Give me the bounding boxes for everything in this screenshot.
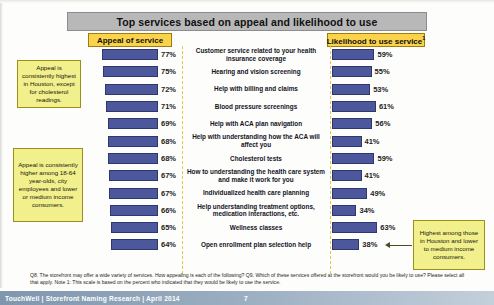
callout-leader-line <box>388 245 412 246</box>
appeal-value-label: 77% <box>161 50 180 59</box>
appeal-bar-cell: 64% <box>0 236 182 253</box>
appeal-value-label: 68% <box>161 137 180 146</box>
appeal-value-label: 65% <box>161 223 180 232</box>
service-label-cell: Help understanding treatment options, me… <box>182 202 330 219</box>
appeal-bar <box>109 170 158 181</box>
likelihood-value-label: 61% <box>379 102 398 111</box>
service-label: Help understanding treatment options, me… <box>185 203 327 219</box>
service-label-cell: How to understanding the health care sys… <box>182 167 330 184</box>
appeal-value-label: 72% <box>161 85 180 94</box>
column-header-likelihood: Likelihood to use service1 <box>327 33 425 47</box>
likelihood-bar-cell: 59% <box>330 46 494 63</box>
appeal-bar <box>108 136 158 147</box>
likelihood-value-label: 56% <box>375 119 394 128</box>
likelihood-bar-cell: 41% <box>330 167 494 184</box>
likelihood-bar <box>332 118 372 129</box>
appeal-value-label: 75% <box>161 67 180 76</box>
callout-appeal-houston: Appeal is consistently highest in Housto… <box>17 60 81 108</box>
likelihood-value-label: 34% <box>359 206 378 215</box>
appeal-bar-cell: 69% <box>0 115 182 132</box>
likelihood-bar <box>332 222 377 233</box>
service-label-cell: Cholesterol tests <box>182 150 330 167</box>
appeal-value-label: 71% <box>161 102 180 111</box>
service-label-cell: Open enrollment plan selection help <box>182 236 330 253</box>
service-label: Customer service related to your health … <box>185 47 327 63</box>
chart-row: 69%Help with ACA plan navigation56% <box>0 115 494 132</box>
likelihood-bar-cell: 53% <box>330 81 494 98</box>
appeal-bar <box>108 118 158 129</box>
service-label-cell: Hearing and vision screening <box>182 63 330 80</box>
likelihood-bar <box>332 84 370 95</box>
service-label: How to understanding the health care sys… <box>185 168 327 184</box>
page-edge-top <box>0 0 494 3</box>
likelihood-value-label: 41% <box>365 137 384 146</box>
likelihood-bar-cell: 41% <box>330 132 494 149</box>
slide-title-bar: Top services based on appeal and likelih… <box>67 12 427 31</box>
likelihood-bar-cell: 49% <box>330 184 494 201</box>
likelihood-bar-cell: 34% <box>330 202 494 219</box>
footer-page-number: 7 <box>244 295 248 302</box>
appeal-value-label: 69% <box>161 119 180 128</box>
service-label: Help with billing and claims <box>214 85 298 93</box>
appeal-bar <box>110 205 158 216</box>
service-label: Open enrollment plan selection help <box>201 241 311 249</box>
appeal-bar <box>103 66 158 77</box>
service-label: Individualized health care planning <box>203 189 309 197</box>
appeal-bar <box>105 84 158 95</box>
service-label: Help with ACA plan navigation <box>210 120 302 128</box>
service-label: Cholesterol tests <box>230 155 282 163</box>
service-label-cell: Wellness classes <box>182 219 330 236</box>
appeal-bar <box>111 239 158 250</box>
likelihood-value-label: 55% <box>375 67 394 76</box>
service-label-cell: Individualized health care planning <box>182 184 330 201</box>
service-label: Wellness classes <box>230 224 282 232</box>
likelihood-value-label: 59% <box>377 50 396 59</box>
appeal-value-label: 67% <box>161 171 180 180</box>
likelihood-value-label: 49% <box>370 189 389 198</box>
appeal-value-label: 67% <box>161 189 180 198</box>
likelihood-bar <box>332 49 374 60</box>
service-label-cell: Help with ACA plan navigation <box>182 115 330 132</box>
likelihood-bar-cell: 59% <box>330 150 494 167</box>
likelihood-bar <box>332 205 356 216</box>
appeal-value-label: 64% <box>161 240 180 249</box>
likelihood-bar <box>332 188 367 199</box>
footer-brand: TouchWell | Storefront Naming Research |… <box>5 295 180 302</box>
service-label-cell: Blood pressure screenings <box>182 98 330 115</box>
callout-appeal-demographics: Appeal is consistently higher among 18-6… <box>13 148 83 222</box>
service-label: Blood pressure screenings <box>215 103 297 111</box>
callout-appeal-houston-text: Appeal is consistently highest in Housto… <box>21 64 77 104</box>
likelihood-value-label: 53% <box>373 85 392 94</box>
column-header-appeal: Appeal of service <box>88 33 172 47</box>
column-header-likelihood-label: Likelihood to use service1 <box>327 35 426 46</box>
appeal-value-label: 66% <box>161 206 180 215</box>
likelihood-value-label: 41% <box>365 171 384 180</box>
likelihood-bar-cell: 61% <box>330 98 494 115</box>
footnote: Q8. The storefront may offer a wide vari… <box>30 272 470 286</box>
footer-bar: TouchWell | Storefront Naming Research |… <box>0 291 494 305</box>
likelihood-bar <box>332 153 374 164</box>
appeal-bar <box>102 49 158 60</box>
likelihood-bar <box>332 239 359 250</box>
callout-likelihood-houston: Highest among those in Houston and lower… <box>413 220 485 270</box>
likelihood-value-label: 38% <box>362 240 381 249</box>
service-label: Hearing and vision screening <box>211 68 300 76</box>
service-label-cell: Help with understanding how the ACA will… <box>182 132 330 149</box>
appeal-bar <box>111 222 158 233</box>
appeal-bar <box>108 153 158 164</box>
footnote-marker: 1 <box>422 35 425 41</box>
service-label-cell: Customer service related to your health … <box>182 46 330 63</box>
service-label: Help with understanding how the ACA will… <box>185 133 327 149</box>
likelihood-value-label: 63% <box>380 223 399 232</box>
likelihood-bar <box>332 101 376 112</box>
callout-likelihood-houston-text: Highest among those in Houston and lower… <box>417 229 481 261</box>
likelihood-bar <box>332 170 362 181</box>
likelihood-bar <box>332 66 372 77</box>
appeal-value-label: 68% <box>161 154 180 163</box>
column-header-appeal-label: Appeal of service <box>97 36 163 45</box>
appeal-bar <box>109 188 158 199</box>
likelihood-value-label: 59% <box>377 154 396 163</box>
appeal-bar <box>106 101 158 112</box>
likelihood-bar-cell: 56% <box>330 115 494 132</box>
likelihood-bar-cell: 55% <box>330 63 494 80</box>
